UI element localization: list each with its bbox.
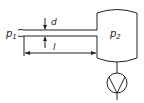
vacuum-diagram: p1 p2 d l — [0, 0, 144, 103]
label-p2: p2 — [109, 28, 121, 41]
label-l: l — [53, 42, 56, 52]
diameter-dimension — [43, 18, 47, 48]
length-dimension — [25, 51, 96, 55]
label-d: d — [51, 17, 57, 27]
label-p1: p1 — [5, 28, 17, 41]
pump — [107, 62, 127, 100]
